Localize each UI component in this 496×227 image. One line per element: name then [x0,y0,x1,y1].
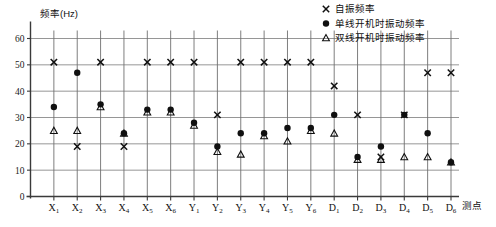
legend-marker-triangle [323,35,330,41]
data-point-circle [448,159,454,165]
data-point-circle [261,130,267,136]
y-tick-label: 20 [15,139,25,149]
data-point-circle [51,104,57,110]
data-point-circle [308,125,314,131]
data-point-circle [378,143,384,149]
data-point-circle [121,130,127,136]
data-point-circle [238,130,244,136]
x-tick-label: D6 [446,202,457,216]
frequency-scatter-chart: 0102030405060 X1X2X3X4X5X6Y1Y2Y3Y4Y5Y6D1… [0,0,496,227]
data-points-layer [50,59,454,165]
x-tick-label: X2 [72,202,83,216]
legend-label: 单线开机时振动频率 [335,18,425,29]
data-point-circle [424,130,430,136]
x-tick-label: X5 [142,202,153,216]
y-tick-label: 60 [15,34,25,44]
data-point-circle [144,106,150,112]
data-point-circle [167,106,173,112]
x-tick-label: Y4 [259,202,270,216]
x-tick-label: D1 [329,202,340,216]
chart-legend: 自振频率单线开机时振动频率双线开机时振动频率 [323,3,425,43]
x-tick-label: D3 [376,202,387,216]
legend-label: 双线开机时振动频率 [335,32,425,43]
y-tick-label: 0 [20,192,25,202]
y-tick-label: 10 [15,166,25,176]
legend-item-2: 单线开机时振动频率 [323,18,425,29]
grid-layer [31,31,460,197]
axis-layer [27,22,460,199]
x-tick-label: D4 [399,202,410,216]
x-tick-label: Y5 [282,202,293,216]
x-tick-label: Y1 [189,202,200,216]
data-point-circle [331,112,337,118]
legend-marker-cross [323,6,329,12]
data-point-circle [191,120,197,126]
legend-item-1: 自振频率 [323,3,375,14]
y-tick-labels: 0102030405060 [15,34,31,202]
y-tick-label: 30 [15,113,25,123]
legend-item-3: 双线开机时振动频率 [323,32,425,43]
x-tick-label: D2 [352,202,363,216]
x-tick-label: Y6 [305,202,316,216]
data-point-circle [284,125,290,131]
x-axis-title: 测点 [462,200,482,211]
x-tick-labels: X1X2X3X4X5X6Y1Y2Y3Y4Y5Y6D1D2D3D4D5D6 [48,197,456,216]
series-3-points [50,104,454,165]
y-tick-label: 50 [15,60,25,70]
x-tick-label: D5 [422,202,433,216]
series-1-points [51,59,455,160]
x-tick-label: Y2 [212,202,223,216]
data-point-circle [214,143,220,149]
x-tick-label: Y3 [235,202,246,216]
y-tick-label: 40 [15,87,25,97]
x-tick-label: X4 [119,202,130,216]
x-tick-label: X1 [48,202,59,216]
x-tick-label: X6 [165,202,176,216]
data-point-circle [74,70,80,76]
data-point-circle [354,154,360,160]
chart-canvas: 0102030405060 X1X2X3X4X5X6Y1Y2Y3Y4Y5Y6D1… [0,0,496,227]
x-tick-label: X3 [95,202,106,216]
data-point-circle [97,101,103,107]
y-axis-title: 频率(Hz) [40,8,78,19]
legend-marker-circle [323,20,329,26]
legend-label: 自振频率 [335,3,375,14]
